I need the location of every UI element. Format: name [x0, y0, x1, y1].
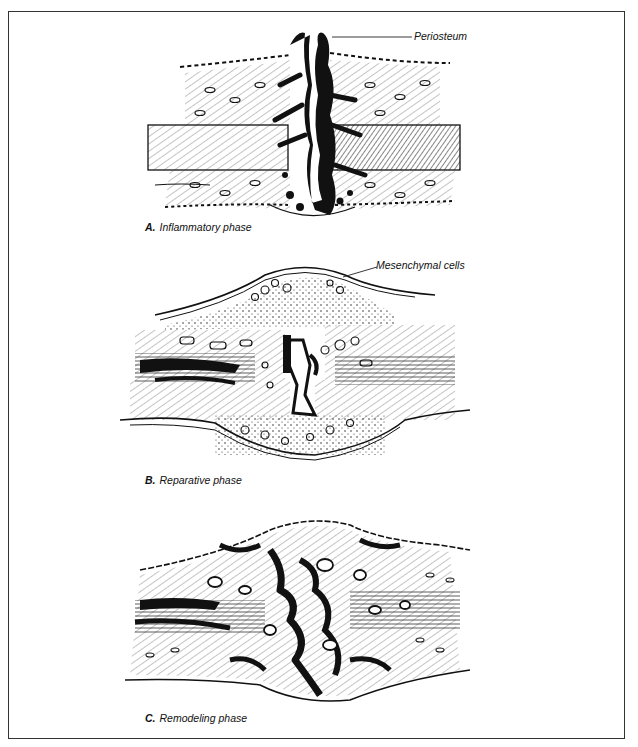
caption-reparative-phase: B.Reparative phase	[145, 474, 242, 486]
remodeling-phase-illustration	[120, 510, 520, 705]
panel-letter-c: C.	[145, 712, 156, 724]
caption-text: Inflammatory phase	[160, 221, 252, 233]
reparative-phase-illustration	[115, 255, 475, 465]
panel-letter-a: A.	[145, 221, 156, 233]
mesenchymal-cells-label: Mesenchymal cells	[376, 259, 465, 271]
inflammatory-phase-illustration	[140, 25, 480, 220]
caption-inflammatory-phase: A.Inflammatory phase	[145, 221, 252, 233]
caption-remodeling-phase: C.Remodeling phase	[145, 712, 247, 724]
periosteum-label: Periosteum	[414, 30, 467, 42]
caption-text: Remodeling phase	[160, 712, 248, 724]
panel-letter-b: B.	[145, 474, 156, 486]
mesenchymal-leader-line	[343, 267, 377, 277]
caption-text: Reparative phase	[160, 474, 242, 486]
